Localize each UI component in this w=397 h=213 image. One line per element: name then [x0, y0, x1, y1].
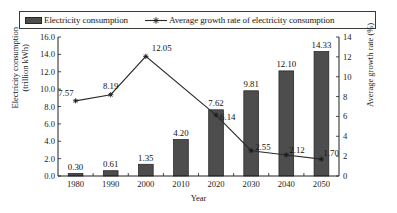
svg-text:14: 14 [343, 32, 352, 42]
svg-text:1980: 1980 [67, 179, 84, 189]
svg-text:16.0: 16.0 [40, 32, 55, 42]
svg-text:12.10: 12.10 [276, 59, 296, 69]
svg-text:2040: 2040 [278, 179, 295, 189]
svg-text:0.30: 0.30 [68, 162, 84, 172]
svg-text:2010: 2010 [172, 179, 189, 189]
svg-text:0: 0 [343, 171, 347, 181]
svg-text:6.0: 6.0 [44, 119, 55, 129]
svg-text:4: 4 [343, 131, 348, 141]
svg-text:10: 10 [343, 72, 352, 82]
chart-container: Electricity consumption Average growth r… [0, 0, 397, 213]
svg-text:12: 12 [343, 52, 352, 62]
svg-text:8.0: 8.0 [44, 102, 55, 112]
plot-area: 0.02.04.06.08.010.012.014.016.0 02468101… [0, 0, 397, 213]
svg-text:4.20: 4.20 [173, 128, 189, 138]
svg-text:10.0: 10.0 [40, 84, 55, 94]
svg-text:2030: 2030 [243, 179, 260, 189]
svg-text:8: 8 [343, 92, 347, 102]
svg-text:1990: 1990 [102, 179, 119, 189]
svg-text:2.0: 2.0 [44, 154, 55, 164]
svg-text:6: 6 [343, 111, 348, 121]
svg-text:1.35: 1.35 [138, 153, 154, 163]
svg-text:4.0: 4.0 [44, 136, 55, 146]
svg-text:0.0: 0.0 [44, 171, 55, 181]
svg-text:14.33: 14.33 [312, 40, 332, 50]
svg-text:9.81: 9.81 [243, 79, 258, 89]
svg-text:2050: 2050 [313, 179, 330, 189]
svg-text:14.0: 14.0 [40, 49, 55, 59]
bar-series [68, 52, 329, 176]
svg-text:1.70: 1.70 [323, 148, 339, 158]
svg-text:6.14: 6.14 [220, 112, 236, 122]
svg-text:7.62: 7.62 [208, 98, 223, 108]
svg-text:2000: 2000 [137, 179, 154, 189]
svg-text:7.57: 7.57 [58, 88, 74, 98]
svg-text:8.19: 8.19 [103, 81, 119, 91]
svg-text:12.0: 12.0 [40, 67, 55, 77]
axis-frame [58, 37, 339, 176]
svg-text:2.12: 2.12 [289, 145, 304, 155]
svg-text:2020: 2020 [207, 179, 224, 189]
y-axis-right-ticks: 02468101214 [336, 32, 352, 181]
svg-text:12.05: 12.05 [152, 43, 172, 53]
svg-text:0.61: 0.61 [103, 159, 118, 169]
svg-text:2.55: 2.55 [255, 142, 271, 152]
svg-text:2: 2 [343, 151, 347, 161]
